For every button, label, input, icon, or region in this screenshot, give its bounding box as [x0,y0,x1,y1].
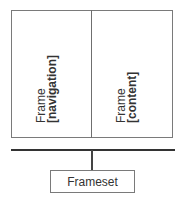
bus-line [11,149,175,151]
frameset-label: Frameset [67,175,118,189]
navigation-frame-name: [navigation] [47,55,58,123]
content-frame-label: Frame [content] [116,72,138,123]
frameset-box: Frameset [50,170,135,193]
content-frame-name: [content] [127,72,138,123]
frame-divider [91,10,92,138]
navigation-frame-label: Frame [navigation] [36,55,58,123]
connector-line [91,150,93,170]
